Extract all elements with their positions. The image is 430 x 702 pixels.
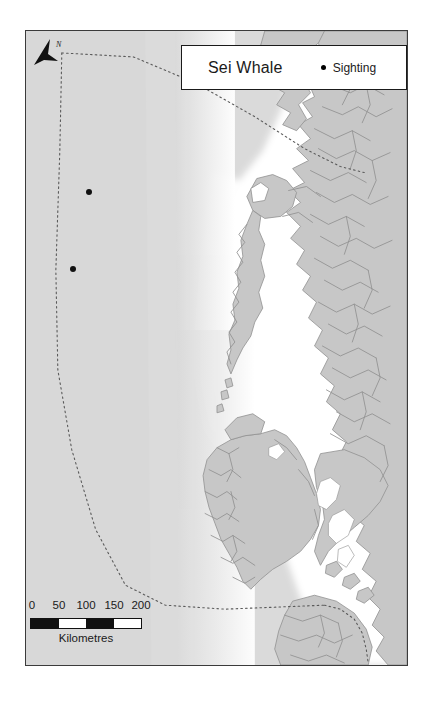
- scale-bar: [30, 618, 142, 629]
- scale-bar-group: 0 50 100 150 200 Kilometres: [26, 599, 186, 615]
- legend-entry-label: Sighting: [333, 61, 376, 75]
- scale-tick-0: 0: [29, 599, 35, 611]
- scale-units-label: Kilometres: [30, 632, 142, 644]
- map-figure: N Sei Whale Sighting 0 50 100 150 200: [0, 0, 430, 702]
- sighting-point[interactable]: [86, 189, 92, 195]
- north-arrow-label: N: [55, 40, 62, 49]
- paper-texture: [26, 31, 407, 665]
- legend: Sei Whale Sighting: [181, 45, 407, 90]
- north-arrow-glyph: [34, 39, 58, 65]
- scale-segment: [31, 619, 59, 628]
- scale-segment: [114, 619, 142, 628]
- scale-tick-200: 200: [131, 599, 150, 611]
- map-frame[interactable]: N Sei Whale Sighting 0 50 100 150 200: [25, 30, 408, 666]
- sighting-symbol-icon: [321, 65, 326, 70]
- scale-segment: [59, 619, 87, 628]
- sighting-point[interactable]: [70, 266, 76, 272]
- scale-tick-labels: 0 50 100 150 200: [26, 599, 186, 615]
- map-canvas[interactable]: [26, 31, 407, 665]
- scale-tick-50: 50: [53, 599, 66, 611]
- scale-tick-150: 150: [104, 599, 123, 611]
- legend-title: Sei Whale: [208, 59, 283, 77]
- north-arrow: N: [30, 35, 72, 79]
- legend-entry-sighting: Sighting: [321, 61, 376, 75]
- scale-segment: [86, 619, 114, 628]
- scale-tick-100: 100: [76, 599, 95, 611]
